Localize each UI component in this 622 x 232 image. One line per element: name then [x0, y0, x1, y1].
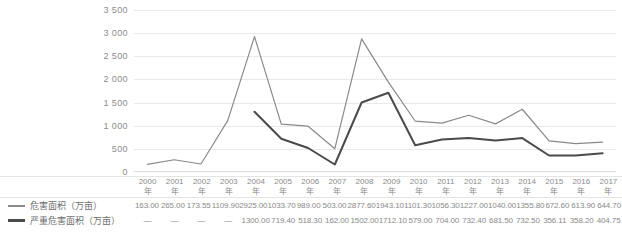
x-axis-tick-label: 2002年	[188, 177, 215, 197]
table-cell-value: 163.00	[134, 201, 160, 210]
table-cell-value: —	[215, 216, 242, 225]
x-axis-tick-label: 2008年	[351, 177, 378, 197]
y-axis-tick-label: 3 500	[103, 5, 128, 15]
y-axis-tick-label: 2 500	[103, 51, 128, 61]
table-cell-value: 2925.00	[239, 201, 267, 210]
table-cell-value: 672.60	[544, 201, 570, 210]
x-axis-tick-label: 2015年	[541, 177, 568, 197]
x-axis-tick-label: 2013年	[486, 177, 513, 197]
table-cell-value: 1227.00	[460, 201, 488, 210]
table-cell-value: 989.00	[296, 201, 322, 210]
legend-swatch-icon-series-2	[8, 219, 25, 222]
legend-item-series-1[interactable]: 危害面积（万亩）	[0, 199, 134, 212]
table-cell-value: —	[134, 216, 161, 225]
table-cell-value: 1101.30	[404, 201, 432, 210]
legend-swatch-icon-series-1	[8, 205, 25, 207]
legend-label-series-1: 危害面积（万亩）	[30, 199, 102, 212]
x-axis-tick-label: 2017年	[595, 177, 622, 197]
x-axis-tick-label: 2007年	[324, 177, 351, 197]
legend-label-series-2: 严重危害面积（万亩）	[30, 214, 120, 227]
table-cell-value: 1943.10	[376, 201, 404, 210]
x-axis-tick-label: 2011年	[432, 177, 459, 197]
table-cell-value: 732.50	[514, 216, 541, 225]
table-cell-value: 1300.00	[242, 216, 270, 225]
data-table: 2000年2001年2002年2003年2004年2005年2006年2007年…	[0, 176, 622, 232]
plot-area: 3 5003 0002 5002 0001 5001 0005000	[0, 0, 622, 176]
table-row-years: 2000年2001年2002年2003年2004年2005年2006年2007年…	[0, 176, 622, 198]
table-cell-value: 613.90	[570, 201, 596, 210]
x-axis-tick-label: 2014年	[514, 177, 541, 197]
table-cell-value: 265.00	[160, 201, 186, 210]
table-cell-value: —	[161, 216, 188, 225]
y-axis-tick-label: 500	[112, 144, 128, 154]
table-cell-value: 1109.90	[212, 201, 240, 210]
table-cell-value: 356.11	[541, 216, 568, 225]
table-cell-value: 518.30	[297, 216, 324, 225]
legend-item-series-2[interactable]: 严重危害面积（万亩）	[0, 214, 134, 227]
table-row: 严重危害面积（万亩） ————1300.00719.40518.30162.00…	[0, 213, 622, 228]
table-cell-value: 162.00	[324, 216, 351, 225]
table-cell-value: 719.40	[270, 216, 297, 225]
table-cell-value: 681.50	[488, 216, 515, 225]
table-cell-value: 404.75	[595, 216, 622, 225]
x-axis-tick-label: 2003年	[215, 177, 242, 197]
y-axis-tick-label: 3 000	[103, 28, 128, 38]
table-cell-value: 704.00	[434, 216, 461, 225]
chart-root: 3 5003 0002 5002 0001 5001 0005000 2000年…	[0, 0, 622, 232]
x-axis-tick-label: 2005年	[270, 177, 297, 197]
table-cell-value: 358.20	[568, 216, 595, 225]
series-line-2	[255, 93, 603, 165]
table-cell-value: —	[188, 216, 215, 225]
table-cell-value: 644.70	[596, 201, 622, 210]
table-cell-value: 173.55	[186, 201, 212, 210]
x-axis-tick-label: 2001年	[161, 177, 188, 197]
series-2-cells: ————1300.00719.40518.30162.001502.001712…	[134, 216, 622, 225]
x-axis-tick-label: 2010年	[405, 177, 432, 197]
table-cell-value: 1355.80	[516, 201, 544, 210]
x-axis-tick-label: 2000年	[134, 177, 161, 197]
x-axis-tick-label: 2016年	[568, 177, 595, 197]
series-1-cells: 163.00265.00173.551109.902925.001033.709…	[134, 201, 622, 210]
x-axis-tick-label: 2004年	[242, 177, 269, 197]
x-axis-tick-label: 2006年	[297, 177, 324, 197]
table-cell-value: 1033.70	[267, 201, 295, 210]
table-cell-value: 1040.00	[488, 201, 516, 210]
x-axis-tick-label: 2012年	[459, 177, 486, 197]
x-axis-tick-label: 2009年	[378, 177, 405, 197]
table-cell-value: 1712.10	[379, 216, 407, 225]
year-cells: 2000年2001年2002年2003年2004年2005年2006年2007年…	[134, 177, 622, 197]
table-cell-value: 2877.60	[347, 201, 375, 210]
y-axis-tick-label: 1 000	[103, 121, 128, 131]
table-cell-value: 1502.00	[350, 216, 378, 225]
y-axis-tick-label: 1 500	[103, 98, 128, 108]
table-cell-value: 503.00	[322, 201, 348, 210]
table-row: 危害面积（万亩） 163.00265.00173.551109.902925.0…	[0, 198, 622, 213]
series-lines	[134, 10, 616, 172]
table-cell-value: 732.40	[461, 216, 488, 225]
y-axis-tick-label: 2 000	[103, 74, 128, 84]
y-axis: 3 5003 0002 5002 0001 5001 0005000	[78, 10, 128, 172]
table-cell-value: 579.00	[407, 216, 434, 225]
table-cell-value: 1056.30	[432, 201, 460, 210]
